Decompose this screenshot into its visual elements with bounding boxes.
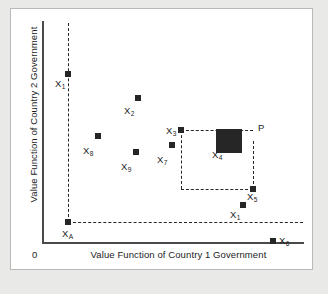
point-label-sub: 9 bbox=[128, 166, 132, 173]
point-label-text: X bbox=[247, 191, 253, 202]
point-label-sub: A bbox=[69, 233, 73, 240]
reference-line-vertical bbox=[68, 23, 69, 222]
point-label-sub: 1 bbox=[62, 83, 66, 90]
origin-label: 0 bbox=[32, 249, 37, 260]
figure-frame: Value Function of Country 2 Government V… bbox=[10, 8, 313, 270]
point-label-text: X bbox=[157, 154, 163, 165]
point-label-text: X bbox=[212, 149, 218, 160]
point-label-sub: 8 bbox=[90, 150, 94, 157]
data-point-marker[interactable] bbox=[270, 238, 276, 244]
point-label-text: X bbox=[83, 145, 89, 156]
point-label-sub: 2 bbox=[131, 110, 135, 117]
point-label-sub: 5 bbox=[254, 196, 258, 203]
data-point-marker[interactable] bbox=[95, 133, 101, 139]
point-label-x6: X6 bbox=[279, 236, 289, 246]
point-label-sub: 4 bbox=[219, 154, 223, 161]
pareto-box-left-edge bbox=[181, 130, 182, 189]
point-label-sub: 7 bbox=[164, 159, 168, 166]
point-label-sub: 1 bbox=[237, 214, 241, 221]
data-point-marker[interactable] bbox=[169, 142, 175, 148]
pareto-box-bottom-edge bbox=[181, 189, 253, 190]
data-point-marker[interactable] bbox=[133, 149, 139, 155]
point-label-x3: X3 bbox=[166, 126, 176, 136]
point-label-text: X bbox=[62, 228, 68, 239]
point-label-x2: X2 bbox=[124, 106, 134, 116]
point-label-x1-top: X1 bbox=[55, 79, 65, 89]
data-point-marker[interactable] bbox=[135, 95, 141, 101]
data-point-marker[interactable] bbox=[65, 219, 71, 225]
point-label-text: X bbox=[230, 209, 236, 220]
reference-line-horizontal bbox=[68, 222, 303, 223]
point-label-x1-low: X1 bbox=[230, 210, 240, 220]
point-label-text: X bbox=[124, 105, 130, 116]
y-axis bbox=[42, 21, 44, 243]
x-axis-label: Value Function of Country 1 Government bbox=[56, 249, 301, 260]
point-label-x8: X8 bbox=[83, 146, 93, 156]
point-label-sub: 3 bbox=[173, 130, 177, 137]
data-point-marker[interactable] bbox=[240, 202, 246, 208]
point-label-text: X bbox=[121, 161, 127, 172]
annotation-label-p: P bbox=[258, 123, 264, 133]
scatter-plot: Value Function of Country 2 Government V… bbox=[11, 9, 314, 271]
point-label-xa: XA bbox=[62, 229, 73, 239]
y-axis-label: Value Function of Country 2 Government bbox=[28, 5, 39, 225]
point-label-text: X bbox=[55, 78, 61, 89]
x-axis bbox=[42, 242, 304, 244]
point-label-x5: X5 bbox=[247, 192, 257, 202]
data-point-marker[interactable] bbox=[178, 127, 184, 133]
point-label-sub: 6 bbox=[286, 240, 290, 247]
pareto-box-right-edge bbox=[253, 141, 254, 189]
point-label-text: X bbox=[166, 125, 172, 136]
point-label-x4: X4 bbox=[212, 150, 222, 160]
point-label-x9: X9 bbox=[121, 162, 131, 172]
point-label-x7: X7 bbox=[157, 155, 167, 165]
point-label-text: X bbox=[279, 235, 285, 246]
data-point-marker[interactable] bbox=[65, 71, 71, 77]
